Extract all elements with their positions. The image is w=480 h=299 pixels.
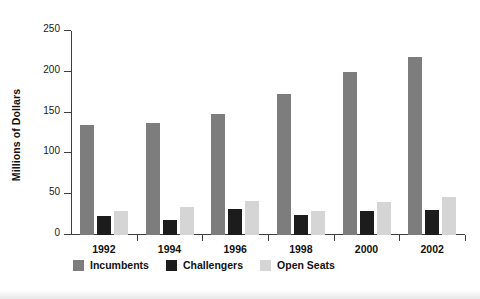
bar[interactable] <box>228 209 242 235</box>
bar[interactable] <box>146 123 160 235</box>
bar-chart-figure: Millions of Dollars 050100150200250 1992… <box>0 0 480 299</box>
y-axis-tick-label: 50 <box>49 186 60 197</box>
bar-group: 1992 <box>80 31 128 235</box>
chart-legend: IncumbentsChallengersOpen Seats <box>73 259 335 271</box>
y-axis-title: Millions of Dollars <box>10 80 22 190</box>
bar[interactable] <box>294 215 308 235</box>
footer-band <box>0 290 480 299</box>
bar[interactable] <box>180 207 194 235</box>
bar-group: 2002 <box>408 31 456 235</box>
bar[interactable] <box>163 220 177 235</box>
x-axis-tick <box>202 235 203 241</box>
bar[interactable] <box>114 211 128 235</box>
bar-group: 2000 <box>343 31 391 235</box>
y-axis-tick-label: 0 <box>54 227 60 238</box>
x-axis-tick <box>399 235 400 241</box>
x-axis-tick-label: 1992 <box>74 243 134 255</box>
legend-item-open-seats[interactable]: Open Seats <box>260 259 335 271</box>
bar-group: 1994 <box>146 31 194 235</box>
plot-area: 050100150200250 199219941996199820002002 <box>71 31 465 235</box>
y-axis-tick-label: 200 <box>43 64 60 75</box>
x-axis-tick-label: 2000 <box>337 243 397 255</box>
y-axis-tick: 250 <box>64 30 71 31</box>
x-axis-tick <box>268 235 269 241</box>
x-axis-tick <box>465 235 466 241</box>
x-axis-tick <box>334 235 335 241</box>
bar-group: 1998 <box>277 31 325 235</box>
legend-swatch-icon <box>166 260 177 271</box>
legend-label: Incumbents <box>90 259 149 271</box>
bar[interactable] <box>211 114 225 235</box>
bar[interactable] <box>97 216 111 235</box>
bar[interactable] <box>425 210 439 235</box>
y-axis-line <box>71 31 72 235</box>
y-axis-tick: 100 <box>64 152 71 153</box>
bar[interactable] <box>311 211 325 235</box>
x-axis-tick-label: 1994 <box>140 243 200 255</box>
bar[interactable] <box>80 125 94 235</box>
bar[interactable] <box>277 94 291 235</box>
y-axis-tick-label: 100 <box>43 145 60 156</box>
x-axis-tick-label: 2002 <box>402 243 462 255</box>
legend-item-challengers[interactable]: Challengers <box>166 259 243 271</box>
x-axis-tick-label: 1996 <box>205 243 265 255</box>
bar[interactable] <box>360 211 374 235</box>
bar[interactable] <box>442 197 456 235</box>
legend-swatch-icon <box>260 260 271 271</box>
legend-swatch-icon <box>73 260 84 271</box>
legend-label: Open Seats <box>277 259 335 271</box>
x-axis-tick <box>137 235 138 241</box>
bar[interactable] <box>245 201 259 235</box>
legend-label: Challengers <box>183 259 243 271</box>
y-axis-tick: 50 <box>64 193 71 194</box>
x-axis-tick-label: 1998 <box>271 243 331 255</box>
bar[interactable] <box>343 72 357 235</box>
bar[interactable] <box>408 57 422 235</box>
y-axis-tick: 0 <box>64 234 71 235</box>
y-axis-tick: 150 <box>64 112 71 113</box>
y-axis-tick: 200 <box>64 71 71 72</box>
y-axis-tick-label: 150 <box>43 105 60 116</box>
bar-group: 1996 <box>211 31 259 235</box>
bar[interactable] <box>377 202 391 235</box>
y-axis-tick-label: 250 <box>43 23 60 34</box>
legend-item-incumbents[interactable]: Incumbents <box>73 259 149 271</box>
